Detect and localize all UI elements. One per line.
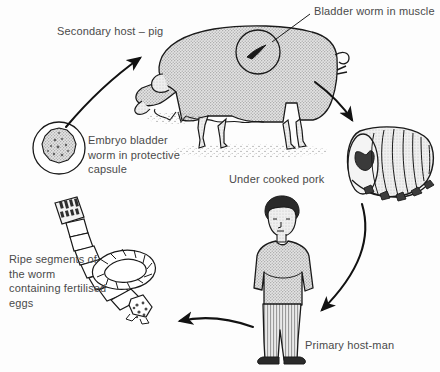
pig-rump-marks bbox=[337, 66, 347, 74]
arrow-pork-to-man bbox=[322, 204, 365, 310]
label-ripe-segments: Ripe segments of the worm containing fer… bbox=[9, 252, 106, 310]
man-trousers bbox=[263, 304, 301, 360]
label-secondary-host: Secondary host – pig bbox=[57, 24, 163, 39]
man-shoe-right bbox=[284, 357, 305, 364]
label-embryo-bladder-worm: Embryo bladder worm in protective capsul… bbox=[88, 133, 180, 177]
man-shoe-left bbox=[258, 357, 279, 364]
embryo-capsule-figure bbox=[33, 122, 85, 174]
arrow-man-to-worm bbox=[180, 318, 253, 327]
tapeworm-gravid-segment bbox=[129, 295, 152, 317]
label-bladder-worm-in-muscle: Bladder worm in muscle bbox=[314, 4, 435, 19]
pig-ground-left bbox=[147, 112, 203, 124]
pig-leg-hind-right bbox=[296, 119, 306, 147]
pig-ground-right bbox=[172, 144, 328, 158]
pork-joint-figure bbox=[348, 127, 435, 201]
man-neck bbox=[277, 234, 286, 242]
diagram-canvas: Secondary host – pig Bladder worm in mus… bbox=[0, 0, 440, 372]
lifecycle-illustration bbox=[0, 0, 440, 372]
label-primary-host-man: Primary host-man bbox=[305, 338, 394, 353]
man-face bbox=[268, 207, 296, 236]
label-under-cooked-pork: Under cooked pork bbox=[229, 172, 325, 187]
man-sweater bbox=[254, 241, 313, 305]
arrow-embryo-to-pig bbox=[66, 58, 140, 127]
pig-leg-front-right bbox=[218, 119, 227, 148]
pig-leg-hind-left bbox=[283, 120, 295, 149]
